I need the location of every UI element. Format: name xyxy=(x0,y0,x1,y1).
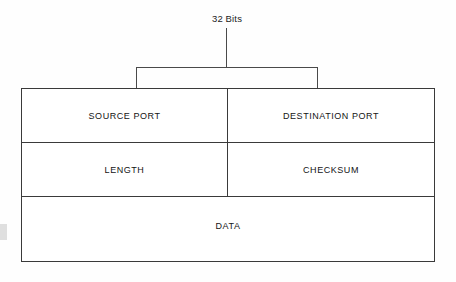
bit-width-label-text: 32 Bits xyxy=(212,13,242,24)
cell-length: LENGTH xyxy=(22,143,228,196)
bit-width-label: 32 Bits xyxy=(0,13,456,24)
bit-width-stem-line xyxy=(226,28,227,67)
udp-header-diagram: 32 Bits SOURCE PORT DESTINATION PORT LEN… xyxy=(0,0,456,282)
udp-header-table: SOURCE PORT DESTINATION PORT LENGTH CHEC… xyxy=(21,88,435,262)
cell-source-port: SOURCE PORT xyxy=(22,89,228,142)
table-row: LENGTH CHECKSUM xyxy=(22,143,434,197)
table-row: DATA xyxy=(22,197,434,261)
cell-checksum: CHECKSUM xyxy=(228,143,434,196)
table-row: SOURCE PORT DESTINATION PORT xyxy=(22,89,434,143)
bit-width-bracket xyxy=(136,67,318,89)
cell-destination-port: DESTINATION PORT xyxy=(228,89,434,142)
scan-artifact xyxy=(0,224,7,240)
cell-data: DATA xyxy=(22,197,434,261)
